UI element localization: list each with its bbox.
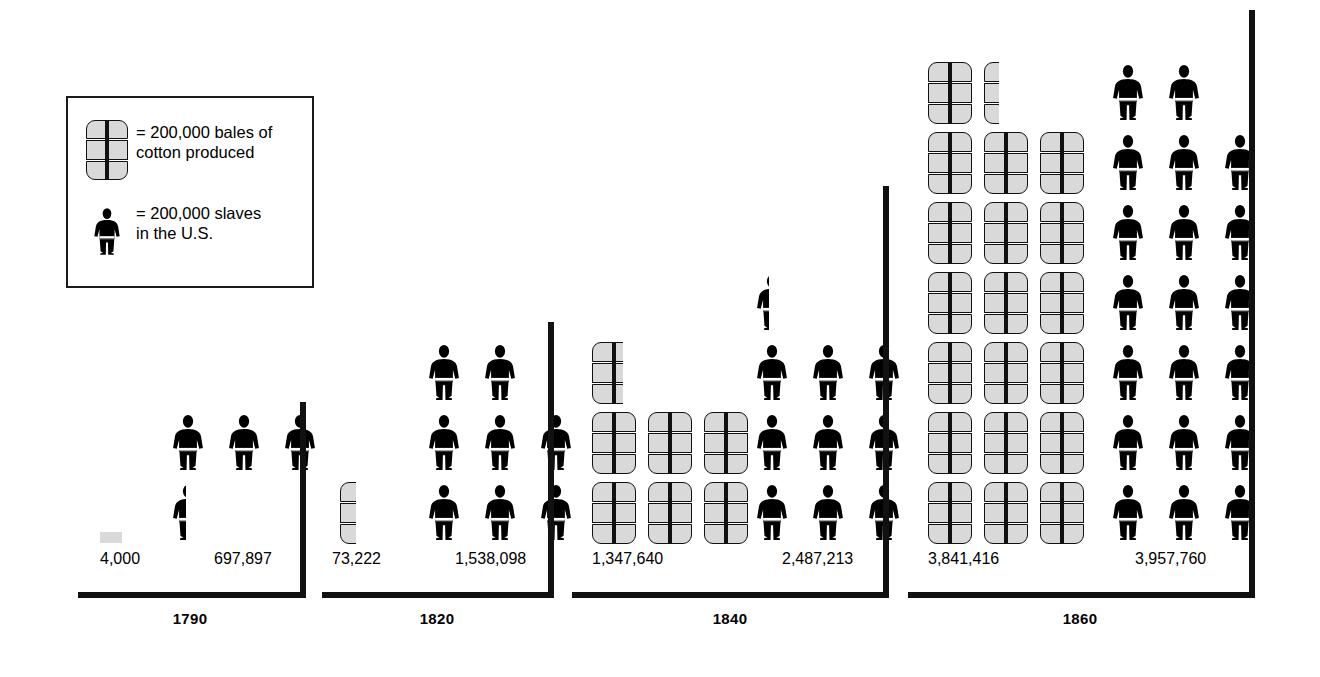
cotton-bale-icon [928, 342, 972, 404]
cotton-bale-icon [984, 482, 1028, 544]
cotton-bale-icon [984, 62, 999, 124]
pictogram-chart: = 200,000 bales of cotton produced = 200… [0, 0, 1320, 677]
cotton-bale-icon [1040, 342, 1084, 404]
cotton-value-label: 3,841,416 [928, 550, 999, 568]
slave-figure-icon [1164, 272, 1204, 334]
cotton-bale-icon [928, 482, 972, 544]
slave-figure-icon [1108, 482, 1148, 544]
cotton-bale-icon [984, 132, 1028, 194]
slave-figure-icon [1164, 482, 1204, 544]
cotton-bale-icon [928, 62, 972, 124]
cotton-bale-icon [928, 132, 972, 194]
slave-figure-icon [1108, 132, 1148, 194]
slave-figure-icon [1164, 62, 1204, 124]
slave-figure-icon [1164, 342, 1204, 404]
slave-figure-icon [1164, 202, 1204, 264]
cotton-bale-icon [928, 202, 972, 264]
cotton-bale-icon [984, 202, 1028, 264]
cotton-bale-icon [1040, 412, 1084, 474]
slave-figure-icon [1164, 412, 1204, 474]
slave-figure-icon [1108, 62, 1148, 124]
cotton-bale-icon [1040, 482, 1084, 544]
slave-figure-icon [1108, 412, 1148, 474]
cotton-bale-icon [1040, 202, 1084, 264]
slave-figure-icon [1108, 202, 1148, 264]
panel-1860: 3,841,4163,957,7601860 [0, 0, 1320, 677]
cotton-bale-icon [984, 272, 1028, 334]
slave-figure-icon [1164, 132, 1204, 194]
axis-vertical [1249, 10, 1255, 598]
slaves-value-label: 3,957,760 [1135, 550, 1206, 568]
cotton-bale-icon [1040, 272, 1084, 334]
slave-figure-icon [1108, 272, 1148, 334]
cotton-bale-icon [928, 412, 972, 474]
cotton-bale-icon [928, 272, 972, 334]
cotton-bale-icon [1040, 132, 1084, 194]
slave-figure-icon [1108, 342, 1148, 404]
cotton-bale-icon [984, 412, 1028, 474]
year-label-1860: 1860 [1050, 610, 1110, 627]
axis-baseline [908, 592, 1254, 598]
cotton-bale-icon [984, 342, 1028, 404]
